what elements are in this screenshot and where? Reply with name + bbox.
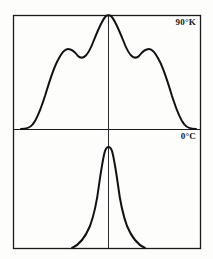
outer-frame-rect xyxy=(14,16,201,249)
plot-frame xyxy=(14,16,201,249)
figure-container: 90°K 0°C xyxy=(0,0,213,259)
resonance-lineshape-plot xyxy=(0,0,213,259)
temperature-label-0C: 0°C xyxy=(181,131,196,141)
temperature-label-90K: 90°K xyxy=(176,17,196,27)
